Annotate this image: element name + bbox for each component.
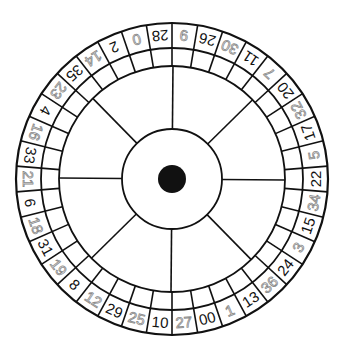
pocket-number-6: 6 (21, 197, 39, 208)
spoke (59, 178, 122, 179)
pocket-divider (17, 166, 60, 170)
pocket-number-34: 34 (304, 193, 324, 212)
pocket-number-7: 7 (260, 64, 278, 82)
pocket-divider (17, 188, 60, 192)
spoke (172, 66, 173, 129)
pocket-number-16: 16 (26, 122, 47, 143)
spoke (222, 179, 285, 180)
pocket-number-26: 26 (197, 30, 217, 51)
pocket-number-0: 0 (131, 31, 143, 50)
pocket-number-28: 28 (151, 27, 169, 45)
spoke (208, 100, 253, 144)
spoke (91, 214, 136, 258)
pocket-number-2: 2 (107, 38, 121, 57)
pocket-number-00: 00 (197, 308, 217, 329)
pocket-divider (285, 166, 328, 170)
center-dot (158, 165, 186, 193)
pocket-number-9: 9 (179, 27, 189, 45)
pocket-number-8: 8 (66, 275, 84, 293)
pocket-divider (285, 188, 328, 192)
pocket-number-22: 22 (307, 171, 324, 188)
spoke (207, 215, 251, 260)
pocket-number-4: 4 (36, 103, 55, 118)
roulette-wheel: 0289263011720321752234153243613100271025… (0, 0, 341, 352)
pocket-number-17: 17 (297, 122, 318, 143)
pocket-number-18: 18 (26, 215, 47, 236)
pocket-number-33: 33 (21, 146, 41, 165)
pocket-number-10: 10 (151, 313, 169, 331)
pocket-number-3: 3 (289, 240, 308, 255)
pocket-number-1: 1 (222, 301, 236, 320)
pocket-number-15: 15 (297, 215, 318, 236)
pocket-number-27: 27 (175, 313, 193, 331)
pocket-number-25: 25 (127, 308, 147, 329)
pocket-divider (191, 25, 198, 67)
pocket-number-30: 30 (219, 36, 241, 58)
spoke (93, 98, 137, 143)
pocket-number-21: 21 (20, 171, 37, 188)
pocket-number-5: 5 (304, 150, 322, 161)
pocket-number-29: 29 (103, 299, 125, 321)
spoke (171, 229, 172, 292)
